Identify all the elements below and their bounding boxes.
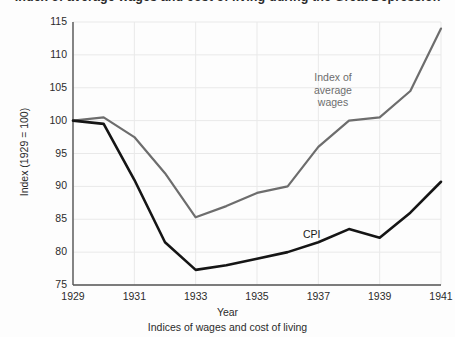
y-axis-title: Index (1929 = 100) xyxy=(18,82,30,222)
y-axis-tick: 80 xyxy=(33,245,67,257)
chart-container: Index of average wages and cost of livin… xyxy=(0,0,455,337)
x-axis-tick: 1941 xyxy=(419,290,455,302)
x-axis-title: Year xyxy=(0,306,455,318)
x-axis-tick: 1933 xyxy=(174,290,218,302)
y-axis-tick: 90 xyxy=(33,179,67,191)
y-axis-tick: 85 xyxy=(33,212,67,224)
y-axis-tick: 115 xyxy=(33,15,67,27)
chart-caption: Indices of wages and cost of living xyxy=(0,321,455,333)
line-chart-plot xyxy=(0,0,455,337)
x-axis-tick: 1937 xyxy=(296,290,340,302)
series-label-wages: Index of average wages xyxy=(291,71,375,109)
series-label-cpi: CPI xyxy=(303,228,343,241)
y-axis-tick: 110 xyxy=(33,48,67,60)
x-axis-tick: 1931 xyxy=(112,290,156,302)
y-axis-tick: 100 xyxy=(33,114,67,126)
y-axis-tick: 75 xyxy=(33,278,67,290)
x-axis-tick: 1929 xyxy=(51,290,95,302)
y-axis-tick: 95 xyxy=(33,147,67,159)
x-axis-tick: 1935 xyxy=(235,290,279,302)
y-axis-tick: 105 xyxy=(33,81,67,93)
x-axis-tick: 1939 xyxy=(358,290,402,302)
